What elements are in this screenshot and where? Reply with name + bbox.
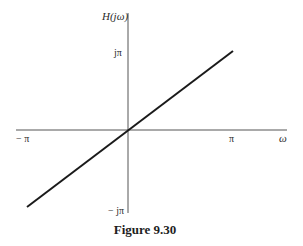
data-line xyxy=(27,51,233,207)
y-tick-pos-label: jπ xyxy=(113,47,122,58)
y-tick-neg-label: − jπ xyxy=(108,205,124,216)
x-axis-label: ω xyxy=(279,132,287,144)
y-axis-label: H(jω) xyxy=(101,10,128,23)
chart-plot: H(jω) jπ − jπ − π π ω xyxy=(0,0,303,246)
x-tick-pos-label: π xyxy=(229,133,234,144)
x-tick-neg-label: − π xyxy=(16,133,29,144)
figure-caption: Figure 9.30 xyxy=(0,222,290,238)
